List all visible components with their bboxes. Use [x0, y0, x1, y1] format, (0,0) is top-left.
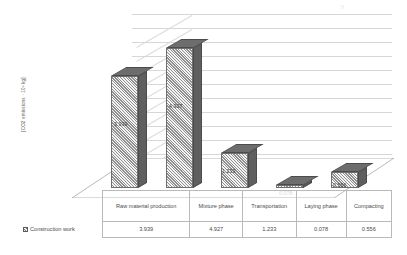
- bar-side-face: [138, 71, 147, 188]
- legend-label: Construction work: [30, 226, 75, 232]
- bar-label-transportation: 1.233: [222, 168, 235, 174]
- bar-raw-material-production: [111, 76, 138, 188]
- gridline: [132, 42, 392, 43]
- bar-label-compacting: 0.556: [333, 182, 346, 188]
- bar-top-face: [221, 144, 264, 153]
- y-axis-title: [CO2 emissions · 10⁶ kg]: [21, 35, 26, 175]
- bar-label-mixture-phase: 4.927: [169, 103, 182, 109]
- table-corner-cell: [22, 191, 103, 222]
- table-value-transportation: 1.233: [242, 222, 296, 238]
- bar-side-face: [248, 148, 257, 188]
- table-value-mixture-phase: 4.927: [190, 222, 243, 238]
- plot-area: 3.939 4.927 1.233 0.078 0.556: [72, 8, 394, 190]
- bar-laying-phase: [276, 185, 303, 188]
- gridline: [132, 28, 392, 29]
- table-data-row: Construction work 3.939 4.927 1.233 0.07…: [22, 222, 392, 238]
- table-header-raw-material-production: Raw material production: [103, 191, 190, 222]
- gridline: [132, 14, 392, 15]
- table-header-row: Raw material production Mixture phase Tr…: [22, 191, 392, 222]
- legend-entry-construction-work: Construction work: [22, 222, 103, 238]
- chart-figure: y [CO2 emissions · 10⁶ kg]: [0, 0, 407, 255]
- bar-side-face: [193, 43, 202, 188]
- bar-top-face: [111, 67, 154, 76]
- bar-mixture-phase: [166, 48, 193, 188]
- bar-front-face: [276, 185, 303, 188]
- table-value-raw-material-production: 3.939: [103, 222, 190, 238]
- bar-front-face: [111, 76, 138, 188]
- bar-label-raw-material-production: 3.939: [114, 121, 127, 127]
- bar-front-face: [166, 48, 193, 188]
- table-value-laying-phase: 0.078: [296, 222, 346, 238]
- table-header-transportation: Transportation: [242, 191, 296, 222]
- table-header-compacting: Compacting: [346, 191, 391, 222]
- legend-swatch-icon: [23, 227, 28, 232]
- table-value-compacting: 0.556: [346, 222, 391, 238]
- y-axis-title-container: [CO2 emissions · 10⁶ kg]: [0, 40, 34, 190]
- table-header-mixture-phase: Mixture phase: [190, 191, 243, 222]
- table-header-laying-phase: Laying phase: [296, 191, 346, 222]
- data-table: Raw material production Mixture phase Tr…: [22, 190, 392, 238]
